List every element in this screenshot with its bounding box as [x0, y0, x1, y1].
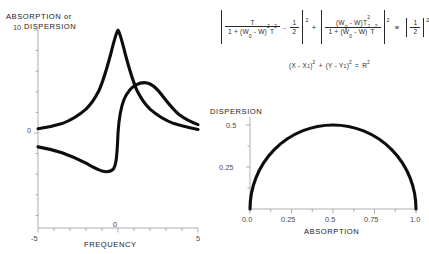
circle-x-label-0: 0.0 — [242, 215, 252, 224]
circle-open2: (Y - Y — [326, 62, 344, 69]
term2-num-sub: 0 — [345, 25, 348, 30]
lineshape-x-label-center: 0 — [113, 220, 117, 229]
abs-bar-open-2 — [321, 10, 322, 44]
equation-panel: T 1 + (W0 - W)2T2 - 1 2 2 + (W0 - W)T2 1… — [215, 10, 426, 100]
circle-equals: = — [355, 62, 359, 69]
term1-den-mid: - W) — [252, 28, 267, 35]
term2-num-exp: 2 — [367, 15, 370, 20]
circle-x-label-3: 0.75 — [364, 215, 378, 224]
circle-y-ticks — [246, 125, 250, 188]
term1-den-prefix: 1 + (W — [228, 28, 249, 35]
lineshape-y-axis-title-line2: DISPERSION — [24, 22, 76, 31]
lineshape-x-label-left: -5 — [31, 234, 38, 243]
term2-denominator: 1 + (W0 - W)2T2 — [325, 27, 380, 36]
term2-den-t: T — [370, 28, 374, 35]
lineshape-plot-panel: ABSORPTION or DISPERSION 10 0 -5 0 5 FRE… — [0, 0, 215, 254]
circle-x-label-2: 0.5 — [325, 215, 335, 224]
circle-x-ticks — [250, 209, 416, 214]
equation-term2-fraction: (W0 - W)T2 1 + (W0 - W)2T2 — [325, 19, 380, 36]
circle-plus: + — [319, 62, 323, 69]
abs-bar-open-3 — [406, 18, 407, 37]
equation-rhs-fraction: 1 2 — [410, 19, 420, 35]
rhs-denominator: 2 — [410, 27, 420, 36]
term2-den-mid: - W) — [352, 28, 367, 35]
equation-minus: - — [284, 24, 286, 31]
absorption-curve — [38, 30, 198, 129]
circle-y-label-mid: 0.25 — [219, 163, 233, 172]
rhs-numerator: 1 — [410, 19, 420, 27]
lineshape-plot-svg — [0, 0, 215, 254]
lineshape-y-axis-title-line1: ABSORPTION or — [6, 12, 72, 21]
lineshape-y-label-zero: 0 — [27, 126, 31, 135]
equation-term1-subtrahend: 1 2 — [290, 19, 300, 35]
term1-sub-denominator: 2 — [290, 27, 300, 36]
term1-den-sub: 0 — [249, 34, 252, 39]
circle-y-axis-title: DISPERSION — [210, 107, 262, 116]
term1-denominator: 1 + (W0 - W)2T2 — [225, 26, 280, 35]
term2-den-exp1: 2 — [367, 24, 370, 29]
circle-x-axis-title: ABSORPTION — [304, 227, 359, 236]
equation-term1-fraction: T 1 + (W0 - W)2T2 — [225, 19, 280, 36]
abs-bar-close-2 — [384, 10, 385, 44]
term2-den-exp2: 2 — [375, 24, 378, 29]
lineshape-x-axis-title: FREQUENCY — [84, 240, 137, 249]
abs-bar-open-1 — [221, 10, 222, 44]
main-equation: T 1 + (W0 - W)2T2 - 1 2 2 + (W0 - W)T2 1… — [219, 10, 429, 44]
term1-den-exp1: 2 — [267, 24, 270, 29]
lineshape-x-label-right: 5 — [196, 234, 200, 243]
term2-num-prefix: (W — [336, 19, 345, 26]
circle-x-label-4: 1.0 — [410, 215, 420, 224]
circle-equation: (X - X1)2 + (Y - Y1)2 = R2 — [289, 62, 370, 69]
circle-x-label-1: 0.25 — [281, 215, 295, 224]
circle-y-label-top: 0.5 — [226, 121, 236, 130]
circle-open1: (X - X — [289, 62, 307, 69]
term2-num-mid: - W)T — [348, 19, 368, 26]
term1-numerator: T — [247, 19, 257, 27]
lineshape-y-ticks — [34, 30, 38, 215]
abs-bar-close-1 — [302, 10, 303, 44]
lineshape-x-ticks — [38, 228, 198, 233]
semicircle-curve — [250, 125, 416, 209]
dispersion-curve — [38, 83, 198, 172]
circle-plot-panel: DISPERSION 0.5 0.25 0.0 0.25 0.5 0.75 1.… — [210, 105, 426, 254]
term1-sub-numerator: 1 — [290, 19, 300, 27]
term1-den-exp2: 2 — [274, 24, 277, 29]
equation-plus: + — [312, 23, 317, 32]
lineshape-y-label-top: 10 — [13, 23, 21, 32]
equation-identity: ≡ — [395, 23, 400, 32]
term2-den-sub: 0 — [349, 34, 352, 39]
abs-bar-close-3 — [423, 18, 424, 37]
